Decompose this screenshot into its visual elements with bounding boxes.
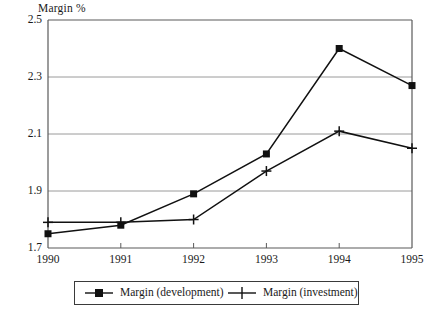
- plot-area: [0, 0, 438, 316]
- legend-swatch-square-icon: [84, 286, 114, 300]
- legend-item-development: Margin (development): [84, 282, 224, 304]
- data-point-marker-square: [263, 150, 270, 157]
- data-point-marker-square: [336, 45, 343, 52]
- x-axis-tick-label: 1990: [25, 253, 71, 265]
- chart-figure: Margin % 1.7 1.9 2.1 2.3 2.5 1990 1991 1…: [0, 0, 438, 316]
- legend: Margin (development) Margin (investment): [74, 281, 359, 305]
- x-axis-tick-marks: [121, 243, 339, 248]
- x-axis-tick-label: 1994: [316, 253, 362, 265]
- y-axis-tick-label: 1.7: [12, 241, 42, 253]
- x-axis-tick-label: 1991: [98, 253, 144, 265]
- series-line-development: [48, 49, 412, 234]
- y-axis-tick-label: 1.9: [12, 184, 42, 196]
- y-axis-title: Margin %: [38, 2, 86, 14]
- legend-swatch-plus-icon: [227, 286, 257, 300]
- data-point-marker-square: [45, 230, 52, 237]
- y-axis-tick-label: 2.1: [12, 127, 42, 139]
- data-series-layer: [43, 45, 417, 237]
- data-point-marker-square: [409, 82, 416, 89]
- legend-label-development: Margin (development): [120, 287, 224, 299]
- x-axis-tick-label: 1995: [389, 253, 435, 265]
- y-axis-tick-label: 2.3: [12, 70, 42, 82]
- legend-label-investment: Margin (investment): [263, 287, 358, 299]
- series-line-investment: [48, 131, 412, 222]
- legend-item-investment: Margin (investment): [227, 282, 358, 304]
- y-axis-tick-label: 2.5: [12, 13, 42, 25]
- x-axis-tick-label: 1992: [171, 253, 217, 265]
- data-point-marker-square: [190, 190, 197, 197]
- x-axis-tick-label: 1993: [243, 253, 289, 265]
